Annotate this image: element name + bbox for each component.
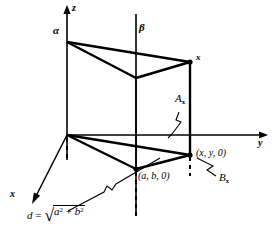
lower-triangle — [67, 135, 190, 169]
leader-line-a — [168, 112, 181, 138]
y-axis-label: y — [258, 138, 262, 148]
point-xy0-label: (x, y, 0) — [196, 148, 226, 158]
radicand-a-exponent: 2 — [60, 206, 63, 213]
upper-triangle — [67, 42, 190, 78]
beta-plane-label: β — [139, 22, 145, 33]
point-x-label: x — [196, 53, 201, 62]
alpha-plane-label: α — [53, 25, 59, 36]
region-a-subscript: x — [182, 98, 185, 105]
region-b-subscript: x — [226, 177, 229, 184]
x-axis — [32, 135, 67, 204]
geometry-figure — [0, 0, 274, 239]
region-a-letter: A — [175, 92, 182, 104]
z-axis-label: z — [72, 3, 76, 13]
y-axis — [67, 131, 268, 138]
point-x-marker — [187, 59, 192, 64]
formula-lhs: d — [27, 209, 33, 221]
leader-line-d — [68, 158, 160, 211]
formula-plus: + — [66, 205, 72, 217]
region-b-letter: B — [219, 171, 226, 183]
leader-line-b — [197, 158, 216, 176]
point-xy0-marker — [187, 152, 192, 157]
region-b-label: Bx — [219, 172, 229, 185]
formula-equals: = — [35, 209, 41, 221]
region-a-label: Ax — [175, 93, 185, 106]
x-axis-label: x — [10, 189, 15, 199]
point-ab0-label: (a, b, 0) — [138, 171, 170, 181]
radicand-b-exponent: 2 — [80, 206, 83, 213]
distance-formula: d = √ a2 + b2 — [27, 205, 85, 224]
